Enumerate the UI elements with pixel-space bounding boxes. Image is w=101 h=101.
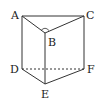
vertex-label-b: B (48, 36, 56, 49)
vertex-label-a: A (10, 9, 20, 22)
vertex-label-e: E (41, 88, 49, 101)
edge-de (22, 69, 45, 84)
vertex-label-d: D (10, 63, 19, 76)
edge-bc (45, 16, 84, 33)
vertex-label-c: C (86, 9, 94, 22)
right-angle-mark (41, 28, 49, 30)
vertex-label-f: F (87, 63, 95, 76)
edge-ef (45, 69, 84, 84)
triangular-prism-diagram: A B C D E F (0, 0, 101, 101)
